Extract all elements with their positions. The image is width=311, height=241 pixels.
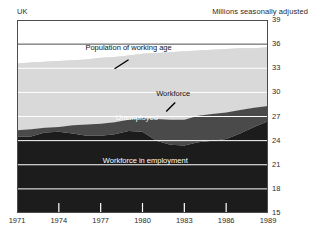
x-axis-label-1983: 1983 xyxy=(176,216,193,225)
x-axis-label-1971: 1971 xyxy=(9,216,26,225)
y-axis-label-39: 39 xyxy=(272,16,280,24)
y-axis-label-36: 36 xyxy=(272,40,280,48)
y-axis-label-18: 18 xyxy=(272,185,280,193)
chart-units-label: Millions seasonally adjusted xyxy=(212,7,308,16)
annotation-unemployed: Unemployed xyxy=(116,113,158,122)
annotation-population-of-working-age: Population of working age xyxy=(85,43,171,52)
y-axis-label-33: 33 xyxy=(272,64,280,72)
y-axis-label-30: 30 xyxy=(272,88,280,96)
y-axis-label-27: 27 xyxy=(272,113,280,121)
x-axis-label-1974: 1974 xyxy=(50,216,67,225)
x-axis-label-1986: 1986 xyxy=(218,216,235,225)
annotation-workforce: Workforce xyxy=(156,89,190,98)
annotation-workforce-in-employment: Workforce in employment xyxy=(103,156,189,165)
x-axis-label-1980: 1980 xyxy=(134,216,151,225)
plot-area: Population of working ageWorkforceUnempl… xyxy=(17,20,268,213)
chart-figure: UK Millions seasonally adjusted Populati… xyxy=(0,0,311,241)
y-axis-label-21: 21 xyxy=(272,161,280,169)
y-axis-label-24: 24 xyxy=(272,137,280,145)
area-chart-svg: Population of working ageWorkforceUnempl… xyxy=(17,20,268,213)
x-axis-label-1989: 1989 xyxy=(260,216,277,225)
x-axis-label-1977: 1977 xyxy=(92,216,109,225)
chart-region-label: UK xyxy=(17,7,28,16)
stacked-area-bands xyxy=(17,47,268,213)
